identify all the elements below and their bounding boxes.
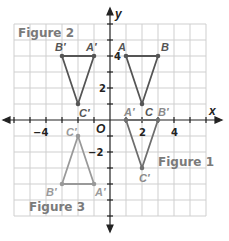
figure3-point-a: A′ bbox=[94, 186, 107, 198]
tick-y-2: 2 bbox=[99, 83, 106, 94]
y-axis-label: y bbox=[114, 7, 123, 21]
point-label-a: A bbox=[117, 41, 126, 53]
figure3-point-c: C′ bbox=[66, 126, 78, 138]
figure2-point-c: C′ bbox=[79, 107, 91, 119]
figure1-point-a: A′ bbox=[123, 106, 136, 118]
x-axis-label: x bbox=[208, 104, 217, 118]
y-axis-arrow-down-icon bbox=[107, 225, 113, 232]
tick-y-neg2: −2 bbox=[88, 147, 103, 158]
figure-3-label: Figure 3 bbox=[29, 200, 85, 214]
axes bbox=[3, 8, 222, 232]
point-label-c: C bbox=[145, 106, 154, 118]
figure-1-label: Figure 1 bbox=[158, 155, 214, 169]
tick-x-2: 2 bbox=[139, 127, 146, 138]
figure1-point-c: C′ bbox=[139, 172, 151, 184]
figure2-point-a: A′ bbox=[85, 41, 98, 53]
figure2-point-b: B′ bbox=[55, 41, 67, 53]
x-axis-arrow-right-icon bbox=[215, 117, 222, 123]
origin-label: O bbox=[96, 122, 106, 136]
tick-x-neg4: −4 bbox=[33, 127, 48, 138]
tick-x-4: 4 bbox=[171, 127, 178, 138]
figure3-point-b: B′ bbox=[46, 186, 58, 198]
figure1-point-b: B′ bbox=[158, 106, 170, 118]
y-axis-arrow-up-icon bbox=[107, 8, 113, 15]
figure-2-label: Figure 2 bbox=[18, 26, 74, 40]
point-label-b: B bbox=[161, 41, 169, 53]
coordinate-plane: x y O −4 2 4 4 2 −2 A B C A′ B′ C′ Figur… bbox=[0, 0, 229, 241]
x-axis-arrow-left-icon bbox=[3, 117, 10, 123]
